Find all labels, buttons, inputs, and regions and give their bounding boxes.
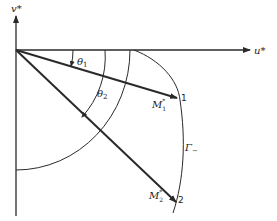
endpoint-1-label: 1	[181, 93, 187, 103]
theta1-label: θ1	[77, 56, 88, 69]
theta2-label: θ2	[97, 88, 108, 101]
endpoint-2-label: 2	[178, 195, 184, 205]
theta1-arc	[71, 50, 73, 66]
m2-label: M*2	[148, 188, 163, 203]
u-axis-label: u*	[254, 45, 265, 56]
v-axis-label: v*	[11, 3, 22, 14]
gamma-minus-label: Γ−	[184, 142, 198, 155]
vector-m2	[16, 50, 176, 202]
diagram-canvas: v* u* θ1 θ2 M*1 1 M*2 2 Γ−	[0, 0, 277, 221]
velocity-plane-diagram: v* u* θ1 θ2 M*1 1 M*2 2 Γ−	[0, 0, 277, 221]
m1-label: M*1	[151, 97, 166, 112]
